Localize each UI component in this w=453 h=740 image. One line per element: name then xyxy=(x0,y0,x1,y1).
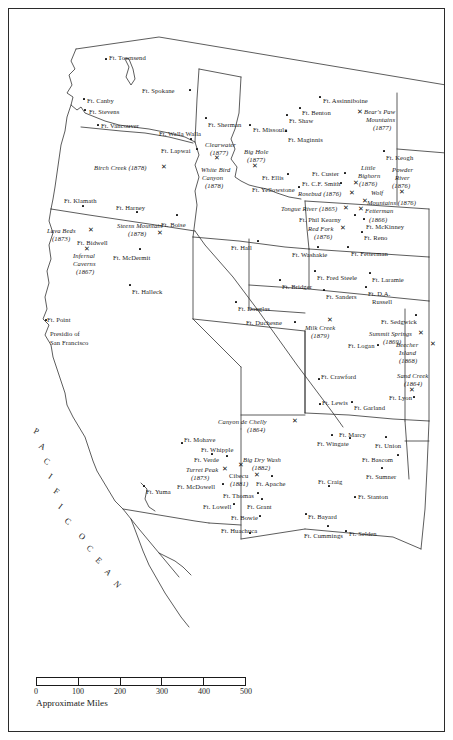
map-label: Ft. Sanders xyxy=(326,293,357,300)
battle-marker-cross: ✕ xyxy=(252,163,258,170)
fort-marker-dot xyxy=(249,532,251,534)
battle-marker-cross: ✕ xyxy=(222,466,228,473)
map-label: Ft. Vancouver xyxy=(101,122,139,129)
map-label: (1864) xyxy=(247,426,265,433)
map-label: (1873) xyxy=(52,235,70,242)
map-label: Ft. Ellis xyxy=(262,174,284,181)
map-label: Big Dry Wash xyxy=(243,456,281,463)
fort-marker-dot xyxy=(381,467,383,469)
scale-tick-label: 0 xyxy=(34,687,38,696)
fort-marker-dot xyxy=(340,182,342,184)
fort-marker-dot xyxy=(413,396,415,398)
map-label: Ft. Marcy xyxy=(339,431,366,438)
fort-marker-dot xyxy=(249,124,251,126)
fort-marker-dot xyxy=(319,403,321,405)
map-label: Ft. Logan xyxy=(348,342,375,349)
fort-marker-dot xyxy=(351,401,353,403)
battle-marker-cross: ✕ xyxy=(362,198,368,205)
fort-marker-dot xyxy=(139,248,141,250)
scale-caption: Approximate Miles xyxy=(36,698,246,708)
map-label: Turret Peak xyxy=(186,466,218,473)
map-label: Ft. McDowell xyxy=(177,483,215,490)
battle-marker-cross: ✕ xyxy=(349,190,355,197)
map-label: Ft. Laramie xyxy=(372,276,404,283)
fort-marker-dot xyxy=(259,515,261,517)
map-label: (1873) xyxy=(191,474,209,481)
map-label: White Bird xyxy=(201,166,231,173)
map-label: Presidio of xyxy=(50,330,80,337)
map-label: Ft. Fetterman xyxy=(351,250,388,257)
map-label: Ft. Sumner xyxy=(366,473,396,480)
map-label: Ft. Keogh xyxy=(386,154,413,161)
map-label: Ft. Verde xyxy=(194,456,219,463)
fort-marker-dot xyxy=(361,231,363,233)
map-label: Ft. Lyon xyxy=(389,394,412,401)
map-label: Wolf xyxy=(371,189,383,196)
map-label: Caverns xyxy=(73,260,96,267)
map-label: Ft. Boise xyxy=(161,221,186,228)
map-label: San Francisco xyxy=(50,339,88,346)
battle-marker-cross: ✕ xyxy=(353,180,359,187)
fort-marker-dot xyxy=(136,211,138,213)
fort-marker-dot xyxy=(143,485,145,487)
map-label: Ft. Stanton xyxy=(358,493,388,500)
map-label: Ft. Reno xyxy=(364,234,388,241)
fort-marker-dot xyxy=(369,272,371,274)
map-label: Ft. Canby xyxy=(87,97,114,104)
fort-marker-dot xyxy=(257,492,259,494)
map-label: Ft. Whipple xyxy=(201,446,233,453)
map-label: Ft. Washakie xyxy=(292,251,327,258)
scale-tick-label: 200 xyxy=(114,687,126,696)
map-label: River xyxy=(395,174,410,181)
scale-bar-segments xyxy=(36,677,246,686)
battle-marker-cross: ✕ xyxy=(88,227,94,234)
map-label: (1867) xyxy=(76,268,94,275)
map-label: Ft. Duchesne xyxy=(246,319,282,326)
map-label: Ft. Bowie xyxy=(231,514,258,521)
fort-marker-dot xyxy=(105,58,107,60)
map-label: Ft. Mohave xyxy=(184,436,215,443)
map-label: Ft. McKinney xyxy=(366,223,404,230)
fort-marker-dot xyxy=(365,286,367,288)
scale-segment xyxy=(121,678,163,685)
fort-marker-dot xyxy=(354,214,356,216)
map-label: (1876) xyxy=(359,180,377,187)
map-label: Little xyxy=(361,164,376,171)
map-label: Ft. Bascom xyxy=(362,456,393,463)
battle-marker-cross: ✕ xyxy=(327,317,333,324)
map-label: Ft. D.A. xyxy=(368,290,390,297)
fort-marker-dot xyxy=(235,301,237,303)
map-label: Ft. Halleck xyxy=(132,288,162,295)
fort-marker-dot xyxy=(257,240,259,242)
fort-marker-dot xyxy=(397,454,399,456)
scale-tick-label: 500 xyxy=(240,687,252,696)
scale-tick-label: 300 xyxy=(156,687,168,696)
map-label: Ft. Spokane xyxy=(142,87,175,94)
map-label: Canyon de Chelly xyxy=(218,418,267,425)
map-label: Ft. Stevens xyxy=(89,108,119,115)
fort-marker-dot xyxy=(319,96,321,98)
map-label: Ft. Lowell xyxy=(203,503,231,510)
fort-marker-dot xyxy=(45,319,47,321)
battle-marker-cross: ✕ xyxy=(157,230,163,237)
map-label: Ft. Shaw xyxy=(289,117,313,124)
fort-marker-dot xyxy=(385,436,387,438)
map-label: Birch Creek (1878) xyxy=(94,164,147,171)
fort-marker-dot xyxy=(226,455,228,457)
fort-marker-dot xyxy=(383,150,385,152)
battle-marker-cross: ✕ xyxy=(161,164,167,171)
battle-marker-cross: ✕ xyxy=(357,109,363,116)
map-label: Ft. Walla Walla xyxy=(159,130,201,137)
fort-marker-dot xyxy=(305,513,307,515)
fort-marker-dot xyxy=(345,530,347,532)
map-label: Ft. Klamath xyxy=(64,197,97,204)
map-label: Ft. C.F. Smith xyxy=(302,180,340,187)
scale-segment xyxy=(204,678,245,685)
fort-marker-dot xyxy=(205,117,207,119)
fort-marker-dot xyxy=(181,442,183,444)
battle-marker-cross: ✕ xyxy=(430,341,436,348)
fort-marker-dot xyxy=(189,89,191,91)
map-label: Powder xyxy=(392,166,413,173)
map-label: Ft. Cummings xyxy=(304,532,343,539)
map-label: Ft. Apache xyxy=(256,480,286,487)
